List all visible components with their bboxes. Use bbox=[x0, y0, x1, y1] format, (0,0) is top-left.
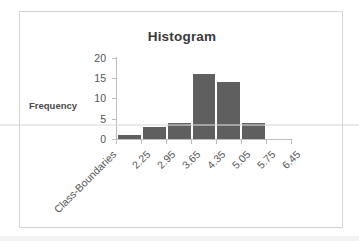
x-tick-mark bbox=[291, 140, 292, 144]
y-tick-label-5: 5 bbox=[66, 113, 106, 125]
histogram-bar bbox=[192, 74, 217, 139]
x-tick-label-4: 4.35 bbox=[205, 148, 228, 171]
y-tick-label-15: 15 bbox=[66, 72, 106, 84]
page-edge-artifact bbox=[0, 236, 359, 241]
x-tick-mark bbox=[116, 140, 117, 144]
y-tick-mark bbox=[112, 119, 116, 120]
x-tick-mark bbox=[141, 140, 142, 144]
y-tick-label-20: 20 bbox=[66, 52, 106, 64]
y-tick-mark bbox=[112, 98, 116, 99]
histogram-bar bbox=[216, 82, 241, 139]
histogram-bar bbox=[241, 123, 266, 139]
x-tick-mark bbox=[166, 140, 167, 144]
chart-title: Histogram bbox=[20, 29, 344, 44]
y-tick-label-10: 10 bbox=[66, 92, 106, 104]
chart-frame: Histogram Frequency 0 5 10 15 20 Class-B… bbox=[19, 11, 343, 228]
x-tick-label-7: 6.45 bbox=[280, 148, 303, 171]
x-tick-label-1: 2.25 bbox=[130, 148, 153, 171]
x-tick-mark bbox=[266, 140, 267, 144]
x-tick-label-3: 3.65 bbox=[180, 148, 203, 171]
x-axis-title: Class-Boundaries bbox=[51, 148, 118, 215]
x-tick-label-2: 2.95 bbox=[155, 148, 178, 171]
y-tick-mark bbox=[112, 78, 116, 79]
plot-area bbox=[117, 58, 291, 139]
x-tick-mark bbox=[216, 140, 217, 144]
x-tick-mark bbox=[241, 140, 242, 144]
histogram-bar bbox=[142, 127, 167, 139]
x-tick-label-6: 5.75 bbox=[255, 148, 278, 171]
histogram-bar bbox=[167, 123, 192, 139]
x-tick-label-5: 5.05 bbox=[230, 148, 253, 171]
histogram-bar bbox=[117, 135, 142, 139]
y-tick-label-0: 0 bbox=[66, 133, 106, 145]
y-tick-mark bbox=[112, 58, 116, 59]
x-tick-mark bbox=[191, 140, 192, 144]
